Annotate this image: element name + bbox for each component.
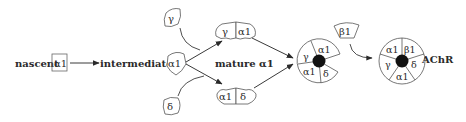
svg-text:α1: α1	[168, 58, 181, 69]
svg-text:α1: α1	[238, 26, 251, 37]
bottom-dimer: α1 δ	[217, 88, 256, 104]
gamma-join-curve	[180, 28, 200, 50]
delta-join-curve	[178, 76, 204, 96]
nascent-label: nascent	[15, 58, 59, 69]
tetramer: α1 δ α1 γ	[297, 39, 340, 83]
svg-text:δ: δ	[411, 59, 417, 70]
top-dimer: γ α1	[216, 22, 256, 39]
nascent-subunit-label: α1	[54, 58, 67, 69]
svg-text:β1: β1	[339, 26, 351, 37]
intermediate-label: intermediate	[100, 58, 173, 69]
nascent-stage: nascent α1	[15, 54, 67, 71]
svg-text:γ: γ	[168, 13, 174, 24]
svg-text:γ: γ	[385, 59, 391, 70]
achr-label: AChR	[421, 54, 454, 65]
svg-text:α1: α1	[303, 66, 315, 77]
svg-text:γ: γ	[222, 26, 228, 37]
svg-text:δ: δ	[240, 91, 246, 102]
svg-text:γ: γ	[303, 51, 309, 62]
gamma-subunit: γ	[164, 9, 180, 27]
beta-subunit: β1	[334, 23, 359, 38]
svg-text:α1: α1	[396, 71, 408, 82]
svg-text:δ: δ	[323, 68, 329, 79]
arrow-top-dimer-to-tetramer	[252, 38, 293, 58]
intermediate-subunit: α1	[167, 52, 186, 75]
svg-text:β1: β1	[404, 44, 416, 55]
svg-text:α1: α1	[386, 44, 398, 55]
svg-text:α1: α1	[219, 91, 232, 102]
assembly-diagram: nascent α1 intermediate α1 γ δ γ α1 matu…	[0, 0, 466, 122]
pentamer: α1 β1 δ α1 γ	[379, 38, 425, 84]
delta-subunit: δ	[163, 97, 180, 114]
arrow-beta-to-pentamer	[350, 44, 372, 58]
svg-text:δ: δ	[167, 101, 173, 112]
mature-label: mature α1	[215, 58, 274, 69]
svg-text:α1: α1	[318, 44, 330, 55]
